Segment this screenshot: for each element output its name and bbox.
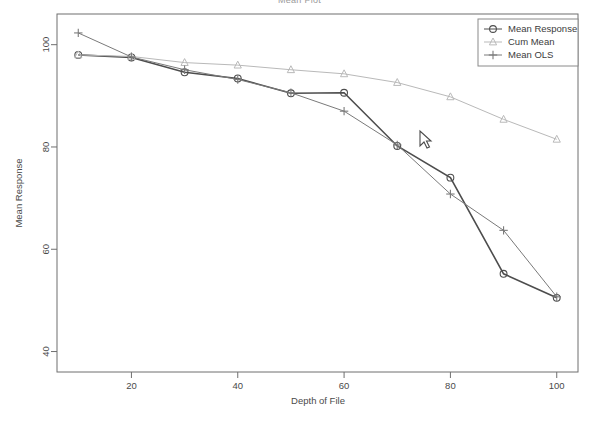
y-tick-label: 100 [40, 37, 51, 53]
x-tick-label: 60 [339, 380, 350, 391]
x-axis-label: Depth of File [291, 395, 345, 406]
data-point-plus [340, 107, 348, 115]
series-mean-ols [74, 29, 561, 301]
mouse-cursor [420, 131, 431, 148]
series-mean-response [75, 52, 560, 302]
x-tick-label: 20 [126, 380, 137, 391]
chart-legend: Mean ResponseCum MeanMean OLS [478, 19, 578, 66]
y-axis-label: Mean Response [13, 158, 24, 227]
plot-frame [57, 14, 578, 372]
mean-plot-figure: 20406080100 406080100 Depth of File Mean… [0, 0, 599, 421]
data-series-layer [74, 29, 561, 302]
x-axis: 20406080100 [126, 372, 565, 391]
chart-container: Mean Plot 20406080100 406080100 Depth of… [0, 0, 599, 421]
x-tick-label: 100 [549, 380, 565, 391]
legend-item-label: Mean OLS [508, 49, 553, 60]
legend-item-label: Cum Mean [508, 36, 554, 47]
page-title: Mean Plot [0, 0, 599, 3]
y-tick-label: 80 [40, 142, 51, 153]
data-point-plus [74, 29, 82, 37]
legend-item-label: Mean Response [508, 23, 577, 34]
y-tick-label: 60 [40, 244, 51, 255]
y-tick-label: 40 [40, 346, 51, 357]
x-tick-label: 80 [445, 380, 456, 391]
y-axis: 406080100 [40, 37, 57, 357]
x-tick-label: 40 [232, 380, 243, 391]
